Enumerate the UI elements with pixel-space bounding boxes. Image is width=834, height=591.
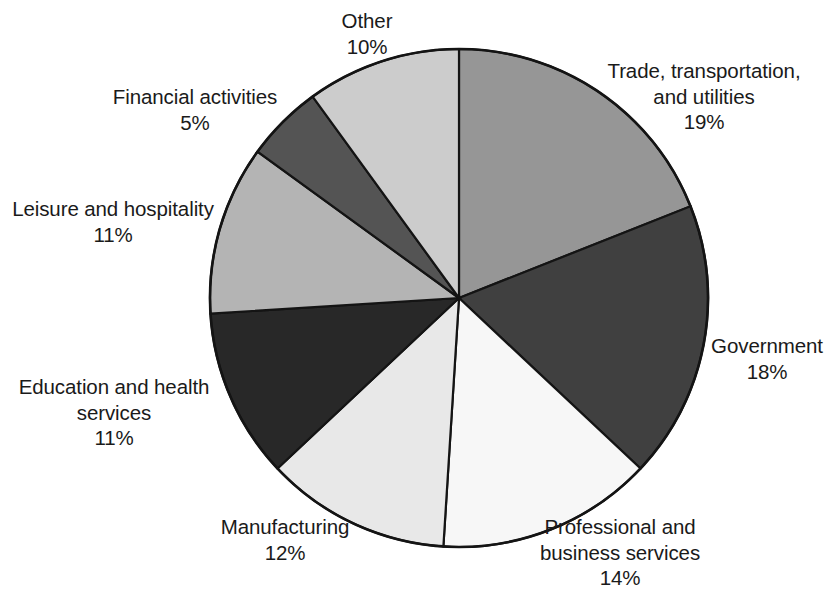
pie-chart-figure: Other 10% Financial activities 5% Leisur… — [0, 0, 834, 591]
slice-label-government-name: Government — [700, 333, 834, 359]
slice-label-government: Government 18% — [700, 333, 834, 384]
slice-label-professional-and-business-services-name-line2: business services — [520, 540, 720, 566]
slice-label-education-and-health-services: Education and health services 11% — [0, 374, 228, 451]
slice-label-manufacturing: Manufacturing 12% — [185, 514, 385, 565]
slice-label-financial-activities-value: 5% — [95, 110, 295, 136]
slice-label-manufacturing-name: Manufacturing — [185, 514, 385, 540]
slice-label-other: Other 10% — [297, 8, 437, 59]
slice-label-trade-transportation-and-utilities: Trade, transportation, and utilities 19% — [588, 58, 820, 135]
slice-label-leisure-and-hospitality-name: Leisure and hospitality — [2, 196, 224, 222]
slice-label-professional-and-business-services-name-line1: Professional and — [520, 514, 720, 540]
slice-label-manufacturing-value: 12% — [185, 540, 385, 566]
slice-label-financial-activities: Financial activities 5% — [95, 84, 295, 135]
slice-label-education-and-health-services-name-line2: services — [0, 400, 228, 426]
slice-label-leisure-and-hospitality: Leisure and hospitality 11% — [2, 196, 224, 247]
slice-label-trade-transportation-and-utilities-value: 19% — [588, 109, 820, 135]
slice-label-trade-transportation-and-utilities-name-line2: and utilities — [588, 84, 820, 110]
slice-label-professional-and-business-services-value: 14% — [520, 565, 720, 591]
slice-label-education-and-health-services-value: 11% — [0, 425, 228, 451]
slice-label-other-value: 10% — [297, 34, 437, 60]
slice-label-leisure-and-hospitality-value: 11% — [2, 222, 224, 248]
slice-label-government-value: 18% — [700, 359, 834, 385]
slice-label-financial-activities-name: Financial activities — [95, 84, 295, 110]
slice-label-other-name: Other — [297, 8, 437, 34]
slice-label-education-and-health-services-name-line1: Education and health — [0, 374, 228, 400]
slice-label-trade-transportation-and-utilities-name-line1: Trade, transportation, — [588, 58, 820, 84]
slice-label-professional-and-business-services: Professional and business services 14% — [520, 514, 720, 591]
